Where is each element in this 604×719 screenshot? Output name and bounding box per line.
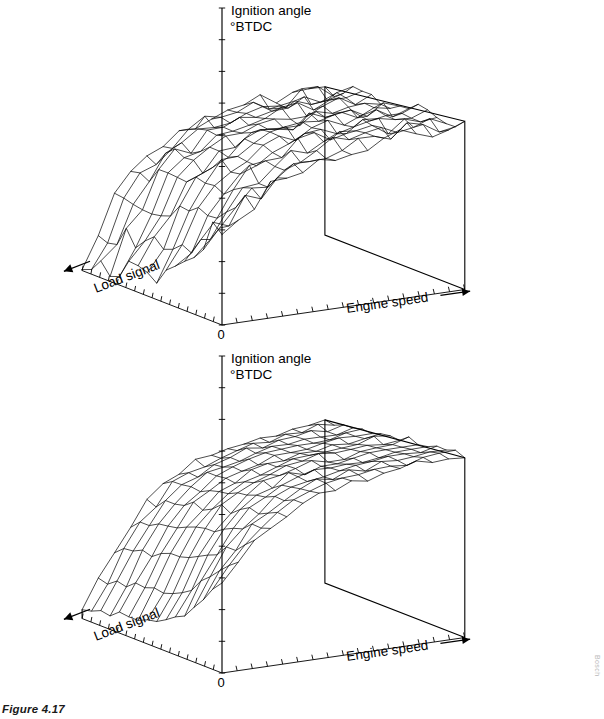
- x-axis-label: Engine speed: [345, 290, 429, 316]
- figure-credit: Bosch: [594, 655, 601, 676]
- surface-plot-top: Ignition angle°BTDC0Engine speedLoad sig…: [0, 0, 604, 340]
- origin-label: 0: [218, 675, 225, 688]
- z-axis-label-line2: °BTDC: [230, 19, 272, 34]
- y-axis-label-group: Load signal: [92, 605, 162, 644]
- figure-caption: Figure 4.17: [2, 703, 65, 715]
- x-axis-label-group: Engine speed: [345, 632, 471, 664]
- z-axis-label-line1: Ignition angle: [231, 3, 311, 18]
- x-axis-label-group: Engine speed: [345, 284, 471, 316]
- surface-plot-bottom: Ignition angle°BTDC0Engine speedLoad sig…: [0, 348, 604, 688]
- origin-label: 0: [218, 327, 225, 340]
- figure-page: Ignition angle°BTDC0Engine speedLoad sig…: [0, 0, 604, 719]
- z-axis-label-line2: °BTDC: [230, 367, 272, 382]
- y-axis-label: Load signal: [92, 605, 162, 644]
- x-axis-label: Engine speed: [345, 638, 429, 664]
- z-axis-label-line1: Ignition angle: [231, 351, 311, 366]
